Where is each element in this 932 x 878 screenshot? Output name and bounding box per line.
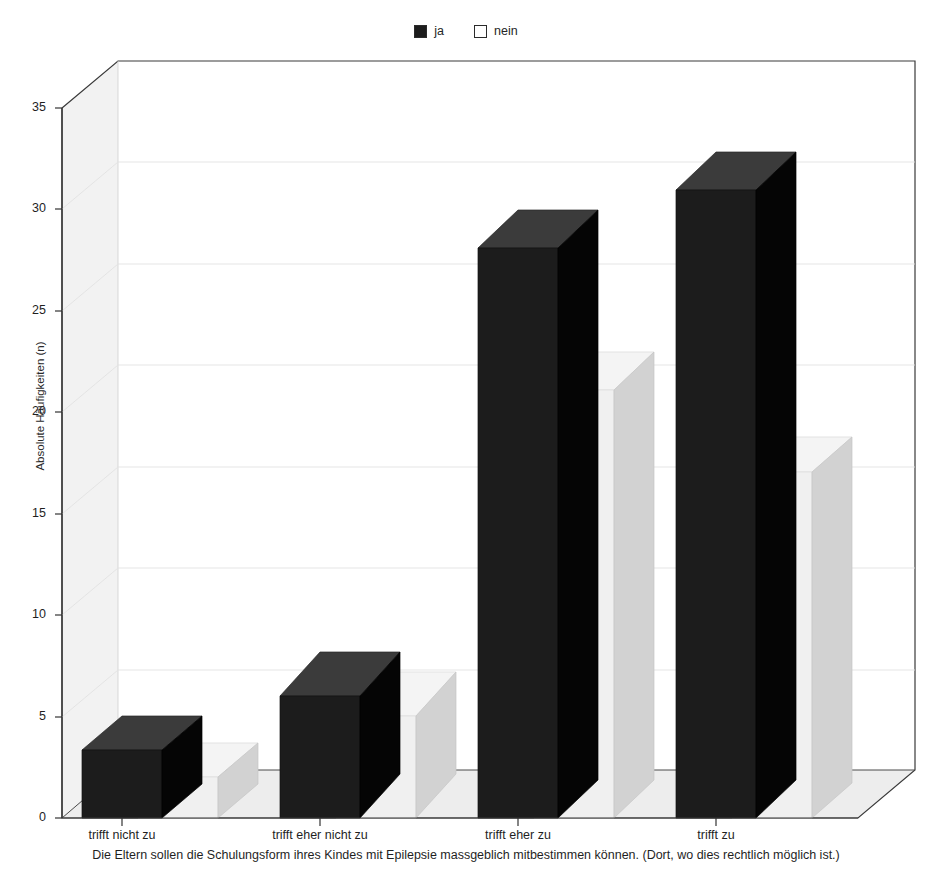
bar-ja-4 [676,152,796,818]
y-tick-35: 35 [16,100,46,114]
bar-ja-2 [280,652,400,818]
x-tick-label-3: trifft eher zu [438,828,598,842]
x-tick-label-1: trifft nicht zu [42,828,202,842]
x-axis-ticks [122,818,716,826]
bar-group-trifft-eher-nicht-zu [280,652,456,818]
bar-ja-3 [478,210,598,818]
y-tick-0: 0 [16,810,46,824]
y-tick-30: 30 [16,201,46,215]
x-tick-label-4: trifft zu [636,828,796,842]
y-axis [55,108,62,818]
y-tick-15: 15 [16,506,46,520]
x-axis-caption: Die Eltern sollen die Schulungsform ihre… [0,848,932,862]
y-tick-10: 10 [16,607,46,621]
chart-plot-area [0,0,932,878]
y-axis-title: Absolute Häufigkeiten (n) [34,306,46,506]
x-tick-label-2: trifft eher nicht zu [240,828,400,842]
y-tick-5: 5 [16,709,46,723]
chart-figure: ja nein [0,0,932,878]
